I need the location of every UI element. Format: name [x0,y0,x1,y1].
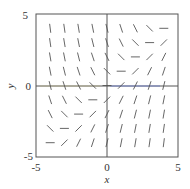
slope-segment [134,110,136,119]
slope-segment [49,96,52,105]
x-axis-label: x [104,173,110,185]
x-tick-mid: 0 [104,161,110,173]
slope-segment [132,68,138,74]
slope-segment [149,124,150,133]
slope-segment [47,125,53,131]
y-axis-label: y [4,83,16,89]
slope-segment [120,124,122,133]
slope-segment [50,24,51,33]
slope-segment [77,139,81,147]
slope-segment [134,96,137,105]
slope-segment [92,38,94,47]
slope-segment [146,25,152,31]
slope-segment [120,110,123,119]
slope-segment [132,39,138,45]
slope-segment [48,110,52,118]
slope-segment [135,138,136,147]
slope-segment [75,125,81,131]
slope-segment [91,138,94,147]
slope-segment [163,124,164,133]
slope-segment [92,24,94,33]
slope-segment [78,53,80,62]
slope-segment [119,96,123,104]
slope-segment [146,54,152,60]
slope-segment [64,52,66,61]
slope-segment [49,52,50,61]
slope-segment [61,140,67,146]
slope-segment [77,67,80,76]
slope-segment [91,67,95,75]
slope-segment [163,138,164,147]
y-tick-mid: 0 [26,80,32,92]
slope-segment [120,138,122,147]
slope-segment [149,95,151,104]
slope-segment [161,39,167,45]
slope-segments [46,24,169,147]
slope-segment [162,67,165,76]
slope-segment [64,38,65,47]
slope-segment [64,24,65,33]
slope-segment [62,96,66,104]
slope-segment [118,54,124,60]
slope-segment [133,24,137,32]
x-tick-min: -5 [31,161,41,173]
slope-segment [91,124,95,132]
slope-segment [148,67,152,75]
direction-field-chart: 5 0 -5 -5 0 5 x y [0,0,190,189]
slope-segment [50,38,51,47]
slope-segment [61,111,67,117]
slope-segment [149,110,151,119]
slope-segment [135,124,137,133]
slope-segment [75,97,81,103]
x-tick-max: 5 [175,161,181,173]
slope-segment [63,67,65,76]
slope-segment [119,39,123,47]
slope-segment [120,24,123,33]
slope-segment [163,95,165,104]
slope-segment [49,67,51,76]
y-tick-max: 5 [23,9,29,21]
slope-segment [163,110,164,119]
slope-segment [78,38,80,47]
slope-segment [91,53,94,62]
slope-segment [162,53,166,61]
slope-segment [78,24,79,33]
slope-segment [149,138,150,147]
slope-segment [90,111,96,117]
